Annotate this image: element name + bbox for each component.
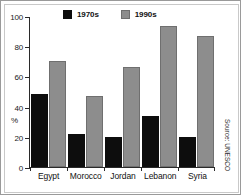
bar-lebanon-1990s bbox=[160, 26, 177, 167]
bar-group bbox=[141, 17, 178, 167]
y-axis-tick-label: 80 bbox=[15, 43, 24, 52]
bar-egypt-1990s bbox=[49, 61, 66, 167]
y-axis-tick-label: 20 bbox=[15, 133, 24, 142]
x-axis-line bbox=[29, 167, 215, 168]
bar-morocco-1970s bbox=[68, 134, 85, 167]
chart-frame: 1970s 1990s % 020406080100 EgyptMoroccoJ… bbox=[0, 0, 241, 195]
bar-lebanon-1970s bbox=[142, 116, 159, 167]
bar-group bbox=[104, 17, 141, 167]
bar-group bbox=[178, 17, 215, 167]
x-axis-label-syria: Syria bbox=[179, 171, 216, 181]
source-note-text: Source: UNESCO bbox=[224, 119, 231, 171]
x-axis-category-labels: EgyptMoroccoJordanLebanonSyria bbox=[30, 171, 216, 181]
bar-group bbox=[30, 17, 67, 167]
bar-group bbox=[67, 17, 104, 167]
bar-syria-1990s bbox=[197, 36, 214, 167]
bar-syria-1970s bbox=[179, 137, 196, 167]
bar-egypt-1970s bbox=[31, 94, 48, 167]
x-axis-label-morocco: Morocco bbox=[67, 171, 104, 181]
y-axis-unit-label: % bbox=[11, 116, 18, 125]
y-axis-tick-label: 100 bbox=[10, 13, 23, 22]
plot-area: 020406080100 bbox=[29, 17, 215, 168]
bar-groups bbox=[30, 17, 215, 167]
x-axis-label-lebanon: Lebanon bbox=[142, 171, 179, 181]
y-axis-tick-label: 40 bbox=[15, 103, 24, 112]
y-axis-tick-label: 0 bbox=[19, 164, 23, 173]
y-axis-tick-label: 60 bbox=[15, 73, 24, 82]
source-note: Source: UNESCO bbox=[230, 119, 240, 189]
bar-morocco-1990s bbox=[86, 96, 103, 167]
x-axis-label-egypt: Egypt bbox=[30, 171, 67, 181]
bar-jordan-1970s bbox=[105, 137, 122, 167]
x-axis-label-jordan: Jordan bbox=[104, 171, 141, 181]
bar-jordan-1990s bbox=[123, 67, 140, 167]
